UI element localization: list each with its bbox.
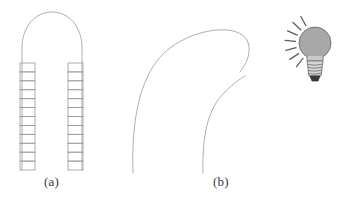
bulb-contact-tip [310,76,320,81]
bulb-neck [307,56,323,61]
figure-canvas [0,0,341,197]
caption-a: (a) [44,174,59,190]
light-ray [285,40,295,41]
figure-background [0,0,341,197]
caption-b: (b) [213,174,229,190]
bulb-glass [299,27,331,59]
figure-root: (a) (b) [0,0,341,197]
